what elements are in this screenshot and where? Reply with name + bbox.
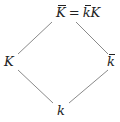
top-k-bar: k bbox=[83, 6, 91, 20]
node-right: k bbox=[107, 55, 115, 69]
node-left: K bbox=[4, 55, 14, 69]
node-bottom: k bbox=[57, 104, 65, 118]
top-K: K bbox=[91, 5, 101, 20]
edge-right-bottom bbox=[69, 70, 108, 103]
edge-top-left bbox=[18, 22, 52, 54]
node-top: K=kK bbox=[56, 6, 100, 20]
edge-top-right bbox=[76, 22, 108, 54]
edge-left-bottom bbox=[18, 70, 53, 103]
top-K-bar: K bbox=[56, 6, 66, 20]
bottom-k: k bbox=[57, 103, 65, 118]
left-K: K bbox=[4, 54, 14, 69]
right-k-bar: k bbox=[107, 55, 115, 69]
equals-sign: = bbox=[69, 5, 80, 20]
